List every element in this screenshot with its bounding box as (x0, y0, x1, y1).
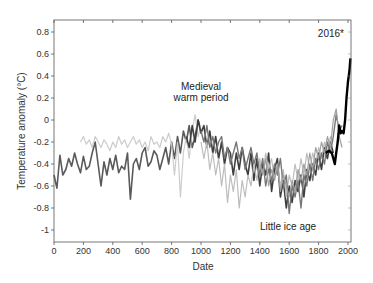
y-tick-label: 0.4 (36, 71, 49, 81)
x-tick-label: 0 (51, 246, 56, 256)
y-tick-label: -0.8 (33, 203, 49, 213)
y-axis-title: Temperature anomaly (°C) (16, 72, 27, 189)
x-tick-label: 600 (135, 246, 150, 256)
x-tick-label: 2000 (338, 246, 358, 256)
annotation-medieval: Medieval (181, 81, 221, 92)
y-tick-label: -1 (41, 225, 49, 235)
y-tick-label: -0.4 (33, 159, 49, 169)
series-line-reconstruction-2 (81, 115, 202, 198)
x-tick-label: 800 (164, 246, 179, 256)
y-tick-label: 0.2 (36, 93, 49, 103)
annotation-2016: 2016* (318, 28, 344, 39)
x-tick-label: 200 (76, 246, 91, 256)
x-tick-label: 1800 (309, 246, 329, 256)
y-tick-label: 0.6 (36, 49, 49, 59)
y-tick-label: -0.6 (33, 181, 49, 191)
annotation-little-ice-age: Little ice age (260, 221, 317, 232)
x-tick-label: 1400 (250, 246, 270, 256)
x-tick-label: 1200 (220, 246, 240, 256)
x-tick-label: 1600 (279, 246, 299, 256)
y-tick-label: 0.8 (36, 27, 49, 37)
x-axis-title: Date (192, 261, 214, 272)
temperature-anomaly-chart: 0200400600800100012001400160018002000 0.… (0, 0, 373, 283)
y-tick-label: -0.2 (33, 137, 49, 147)
annotation-warm-period: warm period (172, 92, 228, 103)
x-tick-label: 400 (105, 246, 120, 256)
y-tick-label: 0 (44, 115, 49, 125)
x-tick-label: 1000 (191, 246, 211, 256)
